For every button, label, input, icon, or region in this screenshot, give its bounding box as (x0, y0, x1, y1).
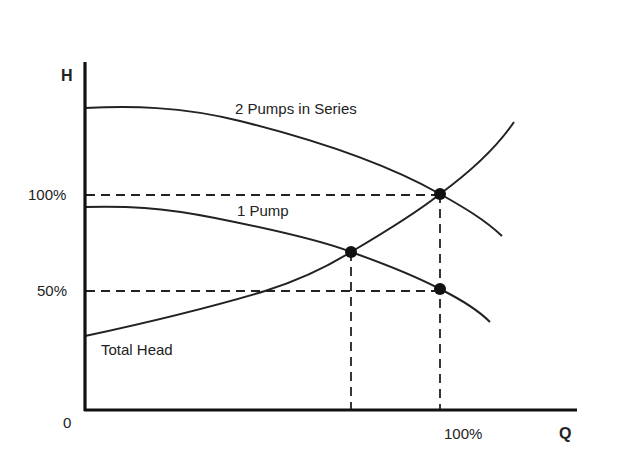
y-tick-50: 50% (37, 283, 67, 298)
pump-curve-chart (0, 0, 623, 455)
reference-lines (86, 194, 440, 410)
origin-label: 0 (63, 415, 71, 430)
x-axis-label: Q (559, 426, 571, 442)
series-label-total-head: Total Head (101, 342, 173, 357)
y-axis-label: H (61, 68, 73, 84)
curves (85, 107, 514, 336)
operating-points (345, 188, 446, 295)
total-head-system-curve (85, 122, 514, 336)
series-label-1pump: 1 Pump (237, 203, 289, 218)
y-tick-100: 100% (28, 187, 66, 202)
point-1pump-at-100q (434, 283, 446, 295)
one-pump-curve (85, 207, 490, 322)
x-tick-100: 100% (444, 426, 482, 441)
operating-point-1pump (345, 246, 357, 258)
series-label-2pumps: 2 Pumps in Series (235, 101, 357, 116)
operating-point-2pumps (434, 188, 446, 200)
